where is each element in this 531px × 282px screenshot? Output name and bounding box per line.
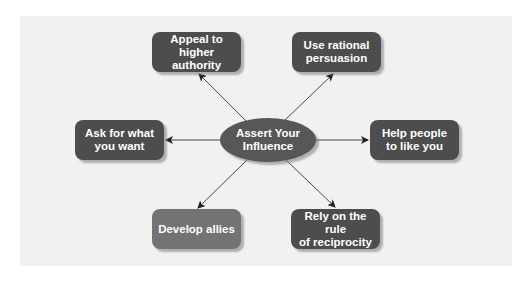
node-rely-on-reciprocity: Rely on the rule of reciprocity <box>291 209 380 249</box>
node-develop-allies: Develop allies <box>152 209 241 249</box>
node-use-rational-persuasion: Use rational persuasion <box>292 32 381 72</box>
node-label: Develop allies <box>158 223 235 236</box>
arrow-to-reciprocity <box>286 160 335 207</box>
node-label: Use rational persuasion <box>304 39 370 65</box>
center-label: Assert Your Influence <box>236 127 300 153</box>
node-label: Rely on the rule of reciprocity <box>295 210 376 249</box>
arrow-to-appeal <box>199 74 247 122</box>
node-help-people-to-like-you: Help people to like you <box>370 120 459 160</box>
node-label: Appeal to higher authority <box>156 33 237 72</box>
center-node-assert-your-influence: Assert Your Influence <box>220 118 316 162</box>
node-appeal-to-higher-authority: Appeal to higher authority <box>152 32 241 72</box>
node-label: Help people to like you <box>382 127 447 153</box>
arrow-to-rational <box>284 74 333 121</box>
node-ask-for-what-you-want: Ask for what you want <box>75 120 164 160</box>
arrow-to-allies <box>198 160 247 208</box>
node-label: Ask for what you want <box>85 127 154 153</box>
